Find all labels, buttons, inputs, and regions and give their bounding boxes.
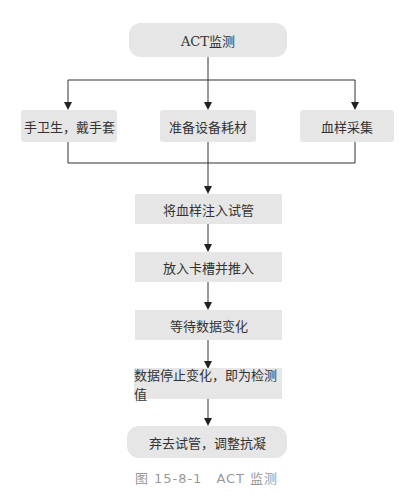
branch-label: 手卫生，戴手套 [24,117,115,136]
step-inject-sample: 将血样注入试管 [135,194,282,224]
step-label: 数据停止变化，即为检测值 [134,365,282,403]
step-insert-cartridge: 放入卡槽并推入 [135,252,282,282]
branch-blood-sampling: 血样采集 [300,110,394,142]
branch-hand-hygiene: 手卫生，戴手套 [21,110,117,142]
connector-lines [0,0,413,497]
end-node: 弃去试管，调整抗凝 [127,426,287,458]
branch-label: 血样采集 [321,117,373,136]
step-read-value: 数据停止变化，即为检测值 [134,368,282,399]
step-label: 放入卡槽并推入 [163,258,254,277]
step-label: 等待数据变化 [170,316,248,335]
figure-caption: 图 15-8-1 ACT 监测 [0,468,413,487]
step-wait-data: 等待数据变化 [135,310,282,340]
end-label: 弃去试管，调整抗凝 [149,433,266,452]
start-label: ACT监测 [181,31,235,50]
branch-prepare-equipment: 准备设备耗材 [160,110,256,142]
start-node: ACT监测 [129,23,287,57]
step-label: 将血样注入试管 [163,200,254,219]
branch-label: 准备设备耗材 [169,117,247,136]
